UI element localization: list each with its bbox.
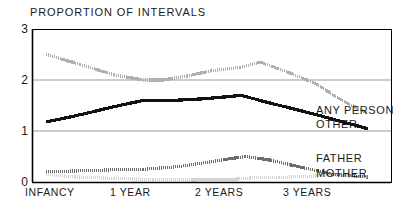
y-tick-label-3: 3: [8, 22, 28, 36]
x-tick-label-1-year: 1 YEAR: [110, 186, 151, 198]
y-tick-label-2: 2: [8, 73, 28, 87]
series-label-other: OTHER: [316, 118, 358, 130]
series-label-mother: MOTHER: [316, 167, 367, 179]
x-tick-label-2-years: 2 YEARS: [195, 186, 243, 198]
x-tick-label-infancy: INFANCY: [25, 186, 75, 198]
x-tick-label-3-years: 3 YEARS: [283, 186, 331, 198]
y-tick-label-1: 1: [8, 124, 28, 138]
chart-figure: PROPORTION OF INTERVALS 3210 INFANCY1 YE…: [0, 0, 409, 209]
series-label-father: FATHER: [316, 152, 362, 164]
series-label-any-person: ANY PERSON: [316, 104, 394, 116]
